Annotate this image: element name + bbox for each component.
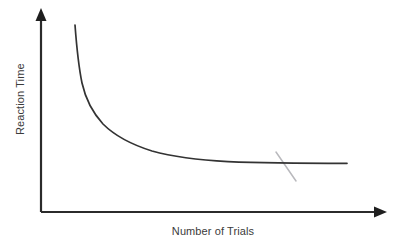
stray-pencil-mark	[276, 152, 296, 181]
y-axis-title: Reaction Time	[15, 95, 26, 135]
x-axis-arrowhead	[374, 207, 387, 218]
plot-canvas	[0, 0, 399, 249]
y-axis-arrowhead	[36, 8, 47, 21]
x-axis-title: Number of Trials	[41, 226, 385, 237]
chart-figure: Reaction Time Number of Trials	[0, 0, 399, 249]
learning-curve-line	[75, 25, 347, 163]
